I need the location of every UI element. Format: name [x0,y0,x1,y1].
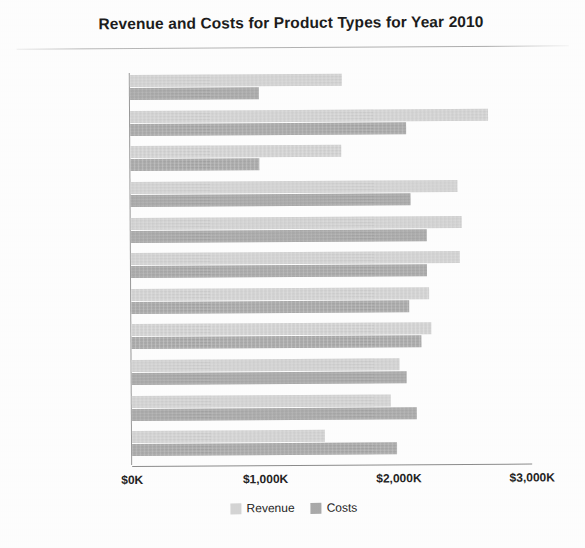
bar-revenue [130,74,342,87]
bar-chart-figure: Revenue and Costs for Product Types for … [0,0,585,548]
bar-revenue [131,287,429,301]
plot-area: InstallFixedMaintenanceLCDAudioCameraSma… [130,71,532,465]
x-axis-tick-labels: $0K$1,000K$2,000K$3,000K [0,0,583,2]
bar-costs [131,229,427,243]
bar-group: Accessories [132,427,532,465]
bar-revenue [131,251,460,265]
bar-revenue [131,323,431,337]
legend-label: Costs [327,501,358,515]
bar-costs [132,407,417,421]
bar-costs [130,122,406,136]
bar-revenue [131,215,462,229]
x-tick-label: $1,000K [221,472,311,487]
title-divider [17,45,569,49]
bar-costs [131,336,421,350]
bar-group: Cell Phones [132,391,532,429]
bar-revenue [132,430,325,443]
bar-costs [131,193,411,207]
legend-item-revenue[interactable]: Revenue [231,501,295,515]
bar-revenue [132,358,400,372]
bar-costs [132,443,397,457]
legend-label: Revenue [247,501,295,515]
bar-group: Camera [131,249,531,287]
bar-group: Install [130,71,530,109]
bar-revenue [130,180,457,194]
bar-revenue [130,108,488,122]
x-tick-label: $2,000K [354,471,444,486]
legend-item-costs[interactable]: Costs [311,501,358,515]
bar-group: SmartPhones [131,284,531,322]
bar-costs [130,87,259,100]
bar-costs [132,371,407,385]
bar-group: Audio [131,213,531,251]
bar-costs [131,264,427,278]
x-tick-label: $0K [87,473,177,488]
bar-group: Fixed [130,106,530,144]
revenue-swatch [231,503,242,514]
bar-group: Maintenance [130,142,530,180]
chart-title: Revenue and Costs for Product Types for … [0,12,584,34]
bar-costs [130,158,259,171]
costs-swatch [311,502,322,513]
bar-group: Plasma [131,320,531,358]
x-tick-label: $3,000K [487,470,577,485]
bar-costs [131,300,409,314]
chart-legend: RevenueCosts [1,499,585,517]
bar-group: LCD [130,177,530,215]
bar-group: Portable [132,356,532,394]
bar-revenue [132,394,391,408]
bar-revenue [130,145,341,158]
